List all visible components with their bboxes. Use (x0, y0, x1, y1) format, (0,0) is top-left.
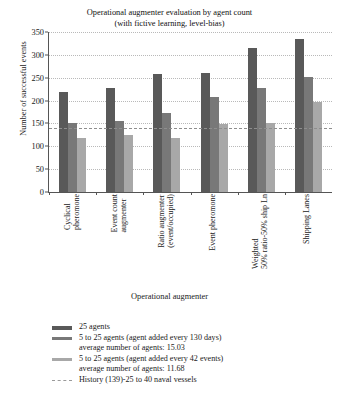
x-axis-category: Ratio augmenter(event/occupied) (142, 194, 189, 276)
bar (248, 48, 257, 192)
x-axis-category-label: Ratio augmenter(event/occupied) (157, 194, 176, 248)
plot-area: Number of successful events 050100150200… (0, 32, 339, 207)
legend-swatch-icon (52, 358, 72, 362)
y-axis-tick-label: 250 (31, 73, 44, 82)
x-axis-tick-mark (238, 192, 239, 195)
legend-swatch-icon (52, 326, 72, 330)
x-axis-category-label-line: Event pheromone (208, 194, 217, 251)
legend-label-line: 25 agents (79, 322, 110, 333)
legend-label-line: History (139)-25 to 40 naval vessels (79, 375, 197, 386)
legend-label: History (139)-25 to 40 naval vessels (79, 375, 197, 386)
bar (59, 92, 68, 192)
legend-swatch-icon (52, 380, 72, 381)
legend-item: 5 to 25 agents (agent added every 42 eve… (52, 354, 332, 375)
x-axis-category-label-line: Shipping Lanes (303, 194, 312, 244)
bar (124, 135, 133, 192)
x-axis-tick-mark (49, 192, 50, 195)
bar-group (238, 32, 285, 192)
x-axis-category-label: Event countaugmenter (109, 194, 128, 232)
bar (162, 113, 171, 192)
x-axis-category-label-line: augmenter (119, 194, 128, 232)
y-axis-ticks: 050100150200250300350 (10, 32, 48, 192)
bar-group (49, 32, 96, 192)
bar (295, 39, 304, 192)
bar-group (285, 32, 332, 192)
bar (77, 138, 86, 192)
x-axis-category-label-line: pheromone (72, 194, 81, 230)
y-axis-tick-label: 0 (40, 188, 44, 197)
bar (257, 88, 266, 192)
x-axis-tick-mark (96, 192, 97, 195)
x-axis-category-label: Cyclicalpheromone (62, 194, 81, 230)
axes (48, 32, 332, 193)
legend-label-line: 5 to 25 agents (agent added every 42 eve… (79, 354, 223, 365)
x-axis-tick-mark (285, 192, 286, 195)
y-axis-tick-label: 200 (31, 96, 44, 105)
bar (153, 74, 162, 192)
x-axis-category-labels: CyclicalpheromoneEvent countaugmenterRat… (48, 194, 331, 276)
legend-swatch-icon (52, 337, 72, 341)
chart-title: Operational augmenter evaluation by agen… (0, 0, 339, 29)
x-axis-category-label: Shipping Lanes (303, 194, 312, 244)
legend-label-line: average number of agents: 11.68 (79, 364, 223, 375)
bar (171, 138, 180, 192)
bar (266, 123, 275, 192)
bar (304, 77, 313, 192)
bar (210, 97, 219, 192)
legend-label: 5 to 25 agents (agent added every 42 eve… (79, 354, 223, 375)
x-axis-category-label-line: Ratio augmenter (157, 194, 166, 248)
x-axis-category: Event pheromone (190, 194, 237, 276)
chart-title-line-1: Operational augmenter evaluation by agen… (0, 7, 339, 18)
x-axis-category-label-line: Weighted (251, 194, 260, 269)
bar (68, 123, 77, 192)
legend-label-line: 5 to 25 agents (agent added every 130 da… (79, 333, 222, 344)
x-axis-category-label: Weighted50% ratio-50% ship Ln (251, 194, 270, 269)
x-axis-label: Operational augmenter (0, 292, 339, 301)
legend-item: 25 agents (52, 322, 332, 333)
bar-groups (49, 32, 332, 192)
chart-legend: 25 agents5 to 25 agents (agent added eve… (52, 322, 332, 386)
bar (219, 124, 228, 192)
y-axis-tick-label: 300 (31, 50, 44, 59)
x-axis-tick-mark (143, 192, 144, 195)
bar (313, 102, 322, 192)
x-axis-category: Shipping Lanes (284, 194, 331, 276)
history-reference-line (49, 128, 332, 129)
x-axis-category-label: Event pheromone (208, 194, 217, 251)
legend-label: 25 agents (79, 322, 110, 333)
x-axis-category-label-line: Cyclical (62, 194, 71, 230)
bar (115, 121, 124, 192)
bar (106, 88, 115, 192)
x-axis-category: Weighted50% ratio-50% ship Ln (237, 194, 284, 276)
bar-group (191, 32, 238, 192)
y-axis-tick-label: 50 (36, 165, 44, 174)
y-axis-tick-label: 350 (31, 28, 44, 37)
legend-label-line: average number of agents: 15.03 (79, 343, 222, 354)
x-axis-tick-mark (191, 192, 192, 195)
y-axis-tick-label: 100 (31, 142, 44, 151)
bar-group (143, 32, 190, 192)
bar (201, 73, 210, 192)
legend-item: History (139)-25 to 40 naval vessels (52, 375, 332, 386)
legend-item: 5 to 25 agents (agent added every 130 da… (52, 333, 332, 354)
x-axis-category: Event countaugmenter (95, 194, 142, 276)
chart-title-line-2: (with fictive learning, level-bias) (0, 18, 339, 29)
bar-group (96, 32, 143, 192)
legend-label: 5 to 25 agents (agent added every 130 da… (79, 333, 222, 354)
x-axis-category: Cyclicalpheromone (48, 194, 95, 276)
x-axis-category-label-line: (event/occupied) (166, 194, 175, 248)
x-axis-category-label-line: 50% ratio-50% ship Ln (260, 194, 269, 269)
y-axis-tick-label: 150 (31, 119, 44, 128)
x-axis-category-label-line: Event count (109, 194, 118, 232)
